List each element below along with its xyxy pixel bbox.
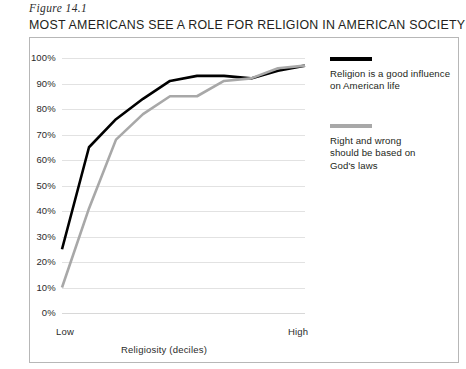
y-tick-label: 0% [22, 307, 56, 318]
x-axis-low-label: Low [56, 326, 74, 337]
legend-entry-right-and-wrong: Right and wrongshould be based onGod's l… [330, 124, 456, 172]
y-tick-label: 10% [22, 282, 56, 293]
legend-label: Right and wrongshould be based onGod's l… [330, 135, 456, 172]
y-tick-label: 70% [22, 129, 56, 140]
legend-swatch-icon [330, 124, 372, 128]
legend-swatch-icon [330, 57, 372, 61]
y-tick-label: 90% [22, 78, 56, 89]
legend-label: Religion is a good influenceon American … [330, 68, 456, 93]
y-tick-label: 60% [22, 154, 56, 165]
y-tick-label: 80% [22, 103, 56, 114]
legend-entry-religion-good-influence: Religion is a good influenceon American … [330, 57, 456, 93]
y-axis-labels: 100%90%80%70%60%50%40%30%20%10%0% [20, 58, 56, 313]
figure-label: Figure 14.1 [29, 2, 87, 14]
x-axis-line [62, 313, 305, 314]
y-tick-label: 100% [22, 52, 56, 63]
y-tick-label: 40% [22, 205, 56, 216]
plot-area [62, 58, 305, 313]
chart-title: MOST AMERICANS SEE A ROLE FOR RELIGION I… [29, 18, 465, 32]
x-axis-title: Religiosity (deciles) [121, 344, 207, 355]
y-tick-label: 50% [22, 180, 56, 191]
x-axis-high-label: High [288, 326, 308, 337]
y-tick-label: 20% [22, 256, 56, 267]
y-tick-label: 30% [22, 231, 56, 242]
data-line-series-1 [62, 66, 305, 288]
data-line-series-0 [62, 66, 305, 250]
chart-lines [62, 58, 305, 313]
